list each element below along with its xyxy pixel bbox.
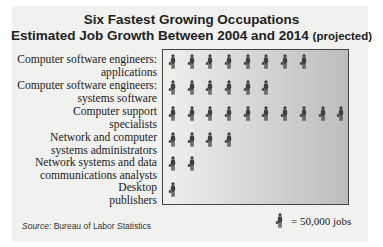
person-with-briefcase-icon xyxy=(187,156,197,171)
pictograph-row xyxy=(168,80,280,100)
person-with-briefcase-icon xyxy=(168,80,178,95)
chart-subtitle: Estimated Job Growth Between 2004 and 20… xyxy=(0,28,383,43)
category-label-line2: specialists xyxy=(73,119,157,132)
person-with-briefcase-icon xyxy=(187,132,197,147)
category-label-line1: Network and computer xyxy=(50,132,157,145)
person-with-briefcase-icon xyxy=(299,54,309,69)
plot-area xyxy=(162,49,349,205)
person-with-briefcase-icon xyxy=(318,106,328,121)
pictograph-row xyxy=(168,132,243,152)
pictograph-row xyxy=(168,182,187,202)
category-label: Network systems and datacommunications a… xyxy=(35,157,157,182)
subtitle-projected: (projected) xyxy=(313,30,372,42)
person-with-briefcase-icon xyxy=(261,80,271,95)
category-label-line2: applications xyxy=(17,67,157,80)
category-label: Network and computersystems administrato… xyxy=(50,132,157,157)
person-with-briefcase-icon xyxy=(187,54,197,69)
subtitle-main: Estimated Job Growth Between 2004 and 20… xyxy=(11,28,309,43)
person-with-briefcase-icon xyxy=(205,80,215,95)
person-with-briefcase-icon xyxy=(187,80,197,95)
person-with-briefcase-icon xyxy=(168,156,178,171)
category-label-line1: Computer software engineers: xyxy=(17,80,157,93)
person-with-briefcase-icon xyxy=(205,54,215,69)
source-note: Source: Bureau of Labor Statistics xyxy=(22,221,151,231)
person-with-briefcase-icon xyxy=(224,54,234,69)
person-with-briefcase-icon xyxy=(275,213,285,228)
person-with-briefcase-icon xyxy=(243,106,253,121)
source-label: Source: xyxy=(22,221,51,231)
source-text: Bureau of Labor Statistics xyxy=(54,221,151,231)
person-with-briefcase-icon xyxy=(280,54,290,69)
person-with-briefcase-icon xyxy=(224,132,234,147)
person-with-briefcase-icon xyxy=(168,54,178,69)
category-label-line2: publishers xyxy=(109,195,157,208)
category-label-line1: Computer support xyxy=(73,106,157,119)
person-with-briefcase-icon xyxy=(224,80,234,95)
person-with-briefcase-icon xyxy=(243,54,253,69)
category-label-line1: Computer software engineers: xyxy=(17,54,157,67)
pictograph-row xyxy=(168,106,355,126)
person-with-briefcase-icon xyxy=(205,132,215,147)
person-with-briefcase-icon xyxy=(243,80,253,95)
category-label-line1: Network systems and data xyxy=(35,157,157,170)
category-label: Computer software engineers:systems soft… xyxy=(17,80,157,105)
legend-text: = 50,000 jobs xyxy=(291,215,351,227)
person-with-briefcase-icon xyxy=(299,106,309,121)
pictograph-row xyxy=(168,156,205,176)
category-label-line1: Desktop xyxy=(109,182,157,195)
person-with-briefcase-icon xyxy=(280,106,290,121)
pictograph-row xyxy=(168,54,318,74)
legend: = 50,000 jobs xyxy=(275,213,351,228)
person-with-briefcase-icon xyxy=(168,132,178,147)
person-with-briefcase-icon xyxy=(205,106,215,121)
chart-title: Six Fastest Growing Occupations xyxy=(0,12,383,27)
category-label-line2: systems software xyxy=(17,93,157,106)
category-label: Desktoppublishers xyxy=(109,182,157,207)
category-label: Computer software engineers:applications xyxy=(17,54,157,79)
person-with-briefcase-icon xyxy=(187,106,197,121)
person-with-briefcase-icon xyxy=(261,54,271,69)
person-with-briefcase-icon xyxy=(336,106,346,121)
partial-person-icon xyxy=(168,182,178,197)
person-with-briefcase-icon xyxy=(224,106,234,121)
person-with-briefcase-icon xyxy=(168,106,178,121)
category-label: Computer supportspecialists xyxy=(73,106,157,131)
person-with-briefcase-icon xyxy=(261,106,271,121)
